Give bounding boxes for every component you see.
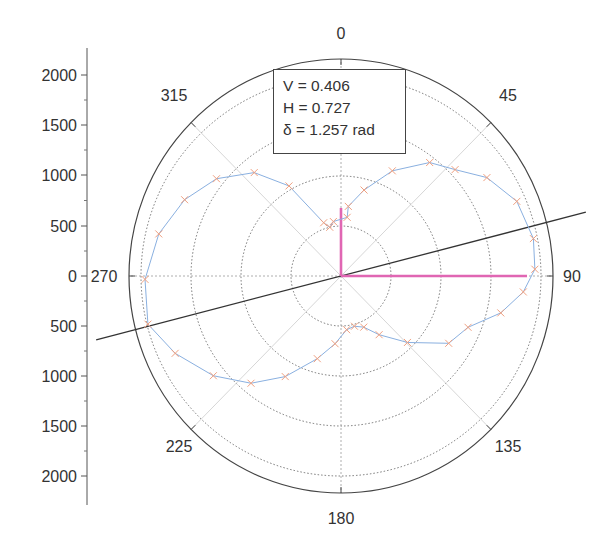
- y-tick-label: 2000: [41, 468, 77, 485]
- annotation-box: V = 0.406 H = 0.727 δ = 1.257 rad: [273, 69, 406, 154]
- radial-y-axis: 2000150010005000500100015002000: [41, 48, 87, 505]
- angle-label-225: 225: [166, 438, 193, 455]
- angle-label-135: 135: [495, 438, 522, 455]
- angle-label-90: 90: [563, 268, 581, 285]
- angle-tick: [487, 123, 491, 127]
- y-tick-label: 2000: [41, 67, 77, 84]
- spoke-line: [191, 276, 341, 429]
- y-tick-label: 1500: [41, 418, 77, 435]
- y-tick-label: 1000: [41, 368, 77, 385]
- angle-tick: [191, 123, 195, 127]
- angle-label-0: 0: [337, 25, 346, 42]
- x-marker: [320, 219, 327, 226]
- angle-label-315: 315: [161, 87, 188, 104]
- x-marker: [465, 324, 472, 331]
- x-marker: [483, 174, 490, 181]
- y-tick-label: 500: [50, 318, 77, 335]
- x-marker: [314, 355, 321, 362]
- x-marker: [181, 196, 188, 203]
- angle-label-270: 270: [91, 268, 118, 285]
- y-tick-label: 0: [68, 268, 77, 285]
- annotation-h: H = 0.727: [283, 97, 405, 119]
- x-marker: [513, 198, 520, 205]
- vector-overlays: [341, 208, 527, 276]
- x-marker: [172, 350, 179, 357]
- angle-label-180: 180: [328, 510, 355, 527]
- y-tick-label: 500: [50, 218, 77, 235]
- angle-label-45: 45: [499, 87, 517, 104]
- x-marker: [520, 288, 527, 295]
- x-marker: [497, 309, 504, 316]
- x-marker: [376, 331, 383, 338]
- y-tick-label: 1500: [41, 117, 77, 134]
- x-marker: [332, 340, 339, 347]
- y-tick-label: 1000: [41, 167, 77, 184]
- x-marker: [361, 187, 368, 194]
- x-marker: [426, 159, 433, 166]
- angle-tick: [487, 425, 491, 429]
- x-marker: [155, 230, 162, 237]
- annotation-v: V = 0.406: [283, 75, 405, 97]
- x-marker: [286, 182, 293, 189]
- spoke-line: [341, 276, 491, 429]
- angle-tick: [191, 425, 195, 429]
- x-marker: [389, 167, 396, 174]
- annotation-delta: δ = 1.257 rad: [283, 119, 405, 141]
- x-marker: [452, 166, 459, 173]
- x-marker: [343, 326, 350, 333]
